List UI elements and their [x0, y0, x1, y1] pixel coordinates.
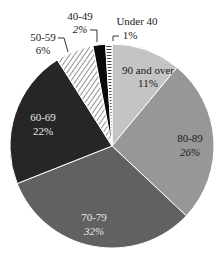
label-s5-pct: 2% — [73, 23, 88, 35]
label-s3-name: 60-69 — [30, 111, 56, 123]
label-s0-name: 90 and over — [122, 64, 174, 76]
label-s1-name: 80-89 — [177, 132, 203, 144]
label-s6-pct: 1% — [123, 29, 138, 41]
label-s2-name: 70-79 — [81, 211, 107, 223]
label-s5-name: 40-49 — [67, 10, 93, 22]
label-s4-pct: 6% — [36, 44, 51, 56]
leader-line-under-40 — [113, 36, 119, 41]
label-s3-pct: 22% — [33, 125, 53, 137]
label-s4-name: 50-59 — [30, 31, 56, 43]
leader-line-50-59 — [58, 38, 68, 52]
pie-chart: 90 and over 11% 80-89 26% 70-79 32% 60-6… — [0, 0, 221, 258]
label-s2-pct: 32% — [83, 225, 104, 237]
label-s6-name: Under 40 — [116, 15, 158, 27]
leader-line-40-49 — [90, 30, 97, 42]
label-s1-pct: 26% — [180, 146, 200, 158]
label-s0-pct: 11% — [138, 77, 158, 89]
